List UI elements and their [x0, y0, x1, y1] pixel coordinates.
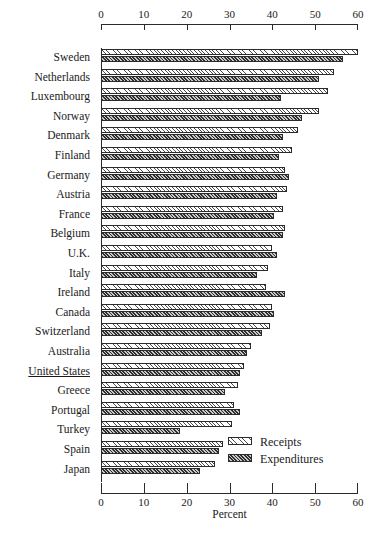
bottom-axis-tick-label: 0: [98, 496, 104, 508]
bar-expenditures: [101, 311, 274, 317]
top-axis-tick-label: 40: [267, 8, 278, 20]
category-label: Switzerland: [35, 325, 90, 337]
legend-label-receipts: Receipts: [260, 434, 301, 450]
top-axis-tick-labels: 0102030405060: [101, 8, 358, 24]
bar-receipts: [101, 127, 298, 133]
bar-expenditures: [101, 232, 283, 238]
category-label: Netherlands: [34, 71, 90, 83]
category-label: Belgium: [50, 227, 90, 239]
category-label: U.K.: [68, 247, 90, 259]
bar-expenditures: [101, 95, 281, 101]
category-label: Spain: [64, 443, 90, 455]
top-axis-tick-label: 10: [138, 8, 149, 20]
top-axis-tick-label: 20: [181, 8, 192, 20]
top-axis-tick-label: 50: [310, 8, 321, 20]
bar-expenditures: [101, 213, 274, 219]
bar-receipts: [101, 421, 232, 427]
category-axis-labels: SwedenNetherlandsLuxembourgNorwayDenmark…: [0, 30, 98, 482]
bar-receipts: [101, 363, 244, 369]
bar-expenditures: [101, 252, 277, 258]
x-axis-title: Percent: [101, 508, 358, 521]
legend-item-expenditures: Expenditures: [228, 451, 358, 468]
bottom-axis-tick-label: 50: [310, 496, 321, 508]
bar-receipts: [101, 323, 270, 329]
bar-expenditures: [101, 468, 200, 474]
bottom-axis-tick: [101, 483, 102, 493]
bar-expenditures: [101, 370, 240, 376]
bar-receipts: [101, 441, 223, 447]
bar-receipts: [101, 304, 272, 310]
category-label: Austria: [56, 188, 90, 200]
bar-expenditures: [101, 154, 279, 160]
category-label: Italy: [69, 267, 90, 279]
bar-receipts: [101, 69, 334, 75]
bar-receipts: [101, 108, 319, 114]
bar-receipts: [101, 186, 287, 192]
category-label: Sweden: [54, 51, 90, 63]
bottom-axis-tick-label: 10: [138, 496, 149, 508]
bottom-axis: 0102030405060: [101, 482, 358, 532]
legend-swatch-expenditures-icon: [228, 454, 252, 462]
bar-expenditures: [101, 272, 257, 278]
bar-receipts: [101, 343, 251, 349]
bottom-axis-tick-label: 30: [224, 496, 235, 508]
category-label: Finland: [55, 149, 90, 161]
bar-expenditures: [101, 409, 240, 415]
bottom-axis-tick: [230, 483, 231, 493]
bottom-axis-line: [101, 493, 358, 494]
category-label: Canada: [56, 306, 90, 318]
bar-expenditures: [101, 428, 180, 434]
bar-receipts: [101, 382, 238, 388]
category-label: Denmark: [47, 129, 90, 141]
category-label: Ireland: [57, 286, 90, 298]
bar-chart: 0102030405060 SwedenNetherlandsLuxembour…: [0, 0, 366, 536]
legend-label-expenditures: Expenditures: [260, 451, 323, 467]
bar-expenditures: [101, 174, 289, 180]
bar-expenditures: [101, 134, 283, 140]
category-label: Australia: [48, 345, 90, 357]
category-label: Portugal: [51, 404, 90, 416]
bar-expenditures: [101, 115, 302, 121]
bar-receipts: [101, 49, 358, 55]
category-label: Greece: [57, 384, 90, 396]
bar-expenditures: [101, 389, 225, 395]
bar-receipts: [101, 284, 266, 290]
bar-receipts: [101, 147, 292, 153]
category-label: Japan: [64, 463, 90, 475]
category-label: Turkey: [57, 423, 90, 435]
legend-swatch-receipts-icon: [228, 437, 252, 445]
bottom-axis-tick: [144, 483, 145, 493]
category-label: United States: [28, 365, 90, 377]
bar-receipts: [101, 402, 234, 408]
bottom-axis-tick-label: 40: [267, 496, 278, 508]
bar-expenditures: [101, 193, 277, 199]
bottom-axis-tick: [357, 483, 358, 493]
bar-expenditures: [101, 291, 285, 297]
bar-receipts: [101, 167, 285, 173]
bar-receipts: [101, 265, 268, 271]
bar-receipts: [101, 461, 215, 467]
bar-expenditures: [101, 330, 262, 336]
category-label: Germany: [47, 169, 90, 181]
top-axis-tick-label: 60: [353, 8, 364, 20]
bar-expenditures: [101, 56, 343, 62]
bar-expenditures: [101, 448, 219, 454]
bar-receipts: [101, 245, 272, 251]
category-label: Luxembourg: [31, 90, 90, 102]
top-axis-tick-label: 30: [224, 8, 235, 20]
bottom-axis-tick: [315, 483, 316, 493]
bottom-axis-tick: [187, 483, 188, 493]
bar-expenditures: [101, 350, 247, 356]
category-label: France: [59, 208, 90, 220]
bottom-axis-tick-label: 60: [353, 496, 364, 508]
plot-area: [101, 30, 358, 482]
top-axis-tick-label: 0: [98, 8, 104, 20]
bar-receipts: [101, 206, 283, 212]
bar-receipts: [101, 225, 285, 231]
bar-expenditures: [101, 76, 319, 82]
bottom-axis-tick: [272, 483, 273, 493]
bar-receipts: [101, 88, 328, 94]
legend: Receipts Expenditures: [228, 434, 358, 468]
legend-item-receipts: Receipts: [228, 434, 358, 451]
bottom-axis-tick-label: 20: [181, 496, 192, 508]
